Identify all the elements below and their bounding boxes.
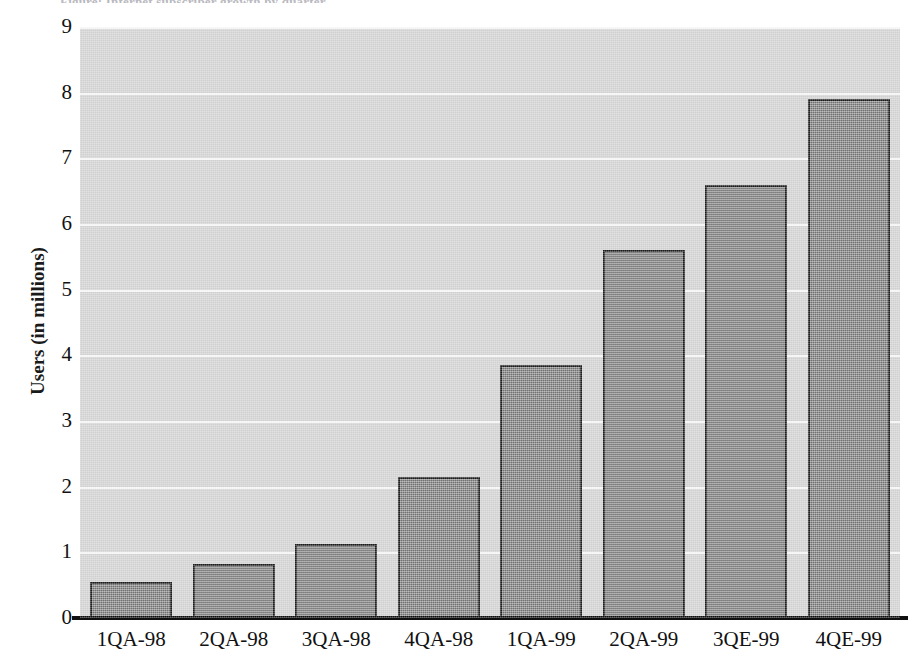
y-axis-tick-label: 9 [42,16,72,37]
bar-texture [502,367,580,616]
bar [90,582,172,618]
y-axis-tick-label: 2 [42,476,72,497]
x-axis-category-label: 2QA-98 [183,628,286,651]
x-axis-category-label: 3QE-99 [695,628,798,651]
x-axis-category-labels: 1QA-982QA-983QA-984QA-981QA-992QA-993QE-… [80,628,900,664]
bar-texture [605,252,683,616]
y-axis-tick-label: 0 [42,607,72,628]
bar [603,250,685,618]
y-axis-tick-label: 5 [42,279,72,300]
x-axis-category-label: 4QA-98 [388,628,491,651]
y-axis-tick-label: 1 [42,541,72,562]
y-axis-tick-label: 7 [42,147,72,168]
y-axis-tick-label: 4 [42,344,72,365]
bar-chart-figure: Figure: Internet subscriber growth by qu… [0,0,921,668]
bars-layer [80,27,900,618]
bar-texture [195,566,273,616]
bar-texture [92,584,170,616]
bar-texture [810,101,888,616]
bar [193,564,275,618]
x-axis-category-label: 1QA-99 [490,628,593,651]
x-axis-category-label: 3QA-98 [285,628,388,651]
caption-remnant-text: Figure: Internet subscriber growth by qu… [60,0,680,3]
bar [808,99,890,618]
bar [705,185,787,618]
bar [500,365,582,618]
bar-texture [707,187,785,616]
bar [295,544,377,618]
y-axis-tick-label: 8 [42,82,72,103]
plot-area [80,27,900,618]
x-axis-category-label: 2QA-99 [593,628,696,651]
x-axis-line [72,616,908,620]
y-axis-tick-label: 3 [42,410,72,431]
bar-texture [400,479,478,616]
y-axis-tick-labels: 0123456789 [30,0,72,668]
bar [398,477,480,618]
bar-texture [297,546,375,616]
y-axis-tick-label: 6 [42,213,72,234]
x-axis-category-label: 1QA-98 [80,628,183,651]
x-axis-category-label: 4QE-99 [798,628,901,651]
